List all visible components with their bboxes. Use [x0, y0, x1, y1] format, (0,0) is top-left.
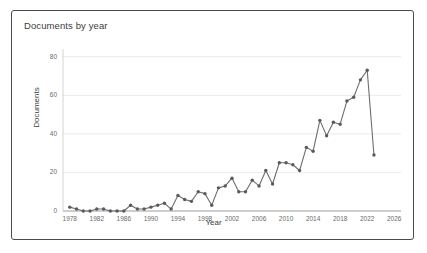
data-point-1988[interactable] [136, 207, 139, 210]
data-point-2023[interactable] [372, 153, 375, 156]
data-point-2018[interactable] [338, 123, 341, 126]
data-point-2015[interactable] [318, 119, 321, 122]
y-axis-title: Documents [32, 68, 41, 148]
data-point-2020[interactable] [352, 96, 355, 99]
documents-by-year-chart-card: Documents by year 020406080 197819821986… [11, 10, 414, 240]
data-point-1999[interactable] [210, 204, 213, 207]
data-point-2019[interactable] [345, 99, 348, 102]
data-point-2000[interactable] [217, 186, 220, 189]
data-point-1992[interactable] [163, 202, 166, 205]
gridlines-group [63, 57, 401, 211]
data-point-1979[interactable] [75, 207, 78, 210]
data-point-1997[interactable] [197, 190, 200, 193]
data-point-2005[interactable] [251, 178, 254, 181]
plot-area: 020406080 197819821986199019941998200220… [12, 11, 415, 241]
data-point-2011[interactable] [291, 163, 294, 166]
data-point-1982[interactable] [95, 207, 98, 210]
data-point-1986[interactable] [122, 209, 125, 212]
data-point-2016[interactable] [325, 134, 328, 137]
data-point-2002[interactable] [230, 177, 233, 180]
data-point-1980[interactable] [82, 209, 85, 212]
data-point-1981[interactable] [88, 209, 91, 212]
data-point-1998[interactable] [203, 192, 206, 195]
data-point-2017[interactable] [332, 121, 335, 124]
y-tick-0: 0 [35, 207, 57, 214]
data-point-2006[interactable] [257, 184, 260, 187]
data-point-2003[interactable] [237, 190, 240, 193]
axis-lines-group [63, 49, 401, 211]
data-point-2007[interactable] [264, 169, 267, 172]
data-point-2012[interactable] [298, 169, 301, 172]
y-tick-80: 80 [35, 53, 57, 60]
x-axis-title: Year [12, 218, 415, 227]
data-point-2014[interactable] [311, 150, 314, 153]
data-point-2021[interactable] [359, 78, 362, 81]
data-point-2008[interactable] [271, 182, 274, 185]
data-point-1984[interactable] [109, 209, 112, 212]
data-point-1990[interactable] [149, 205, 152, 208]
data-point-2001[interactable] [224, 184, 227, 187]
data-point-1994[interactable] [176, 194, 179, 197]
data-point-2013[interactable] [305, 146, 308, 149]
series-line-documents [70, 70, 374, 211]
data-point-2009[interactable] [278, 161, 281, 164]
data-point-2022[interactable] [366, 69, 369, 72]
data-point-1989[interactable] [142, 207, 145, 210]
line-chart-svg [12, 11, 415, 241]
y-tick-20: 20 [35, 168, 57, 175]
data-point-1996[interactable] [190, 200, 193, 203]
data-point-1991[interactable] [156, 204, 159, 207]
data-point-1993[interactable] [169, 207, 172, 210]
data-point-1983[interactable] [102, 207, 105, 210]
data-point-1985[interactable] [115, 209, 118, 212]
screenshot-root: Documents by year 020406080 197819821986… [0, 0, 427, 253]
data-point-2010[interactable] [284, 161, 287, 164]
series-markers-documents [68, 69, 376, 213]
data-point-1987[interactable] [129, 204, 132, 207]
data-point-1995[interactable] [183, 198, 186, 201]
data-point-2004[interactable] [244, 190, 247, 193]
data-point-1978[interactable] [68, 205, 71, 208]
